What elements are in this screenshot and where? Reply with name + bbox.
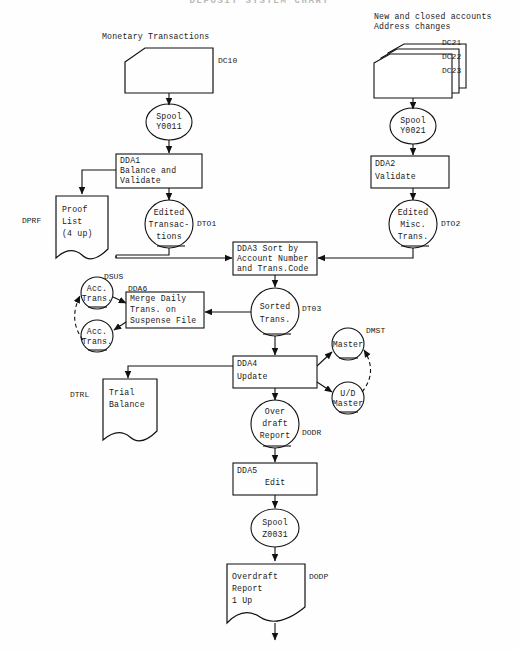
label-trial-2: Balance [109,400,145,410]
label-proof-2: List [62,217,82,227]
label-spool-y0021-1: Spool [388,116,438,126]
label-spool-y0021-2: Y0021 [388,126,438,136]
node-new-closed-accounts-card1 [374,54,452,98]
label-dda5-1: DDA5 [237,466,257,476]
label-edited-misc-3: Trans. [388,232,438,242]
label-sorted-1: Sorted [250,302,300,312]
label-edited-trans-1: Edited [144,208,194,218]
label-dda1-1: DDA1 [120,156,140,166]
label-ud-master-2: Master [326,399,370,409]
label-overdraft-1up-1: Overdraft [232,572,278,582]
tag-dprf: DPRF [22,216,41,226]
label-over-3: Report [250,431,300,441]
label-merge-3: Suspense File [130,316,196,326]
label-dda3-1: DDA3 Sort by [237,244,298,254]
tag-dt03: DT03 [302,304,321,314]
label-acc-trans-upper-2: Trans. [78,294,116,304]
label-acc-trans-upper-1: Acc. [80,284,114,294]
label-monetary-transactions: Monetary Transactions [102,32,209,42]
flowchart-canvas [0,0,519,651]
label-spool-z0031-1: Spool [250,518,300,528]
tag-dmst: DMST [366,326,385,336]
label-dda2-2: Validate [375,172,416,182]
tag-dc21: DC21 [442,38,461,48]
tag-dsus: DSUS [104,272,123,282]
label-dda2-1: DDA2 [375,159,395,169]
label-sorted-2: Trans. [250,315,300,325]
label-spool-z0031-2: Z0031 [250,530,300,540]
label-master: Master [326,340,370,350]
tag-dodp: DODP [309,572,328,582]
label-dda1-3: Validate [120,176,161,186]
label-dda4-1: DDA4 [237,359,257,369]
label-ud-master-1: U/D [330,389,366,399]
label-new-closed-accounts-1: New and closed accounts [374,12,492,22]
label-over-1: Over [252,407,298,417]
label-dda3-3: and Trans.Code [237,264,309,274]
label-acc-trans-lower-2: Trans. [78,337,116,347]
tag-dc22: DC22 [442,52,461,62]
tag-dodr: DODR [302,428,321,438]
tag-dc23: DC23 [442,66,461,76]
label-spool-y0011-1: Spool [144,112,194,122]
label-edited-misc-1: Edited [388,208,438,218]
label-trial-1: Trial [109,388,135,398]
label-dda4-2: Update [237,372,268,382]
label-spool-y0011-2: Y0011 [144,122,194,132]
label-proof-3: (4 up) [62,229,93,239]
node-monetary-transactions-shape [125,48,213,93]
label-edited-trans-3: tions [144,232,194,242]
label-dda5-2: Edit [265,478,285,488]
label-overdraft-1up-2: Report [232,584,263,594]
tag-dda6: DDA6 [128,284,147,294]
label-edited-misc-2: Misc. [388,220,438,230]
label-overdraft-1up-3: 1 Up [232,596,252,606]
label-dda3-2: Account Number [237,254,309,264]
label-new-closed-accounts-2: Address changes [374,22,451,32]
label-acc-trans-lower-1: Acc. [80,327,114,337]
tag-dc10: DC10 [218,56,237,66]
tag-dto1: DTO1 [197,219,216,229]
label-edited-trans-2: Transac- [142,220,196,230]
label-merge-2: Trans. on [130,305,176,315]
label-dda1-2: Balance and [120,166,176,176]
edge-master-feedback [362,350,371,392]
label-over-2: draft [252,419,298,429]
tag-dto2: DTO2 [441,219,460,229]
tag-dtrl: DTRL [70,390,89,400]
label-merge-1: Merge Daily [130,294,186,304]
label-proof-1: Proof [62,205,88,215]
